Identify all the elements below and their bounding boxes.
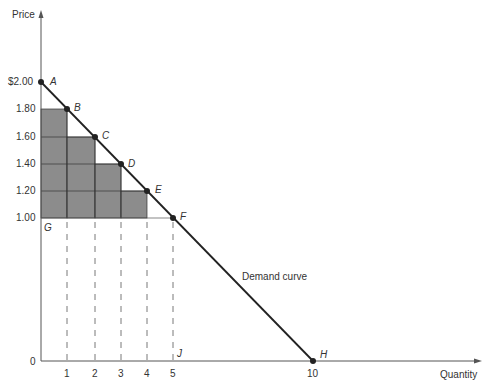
point-label-b: B	[74, 102, 81, 113]
point-label-c: C	[102, 130, 110, 141]
y-tick-1-40: 1.40	[16, 158, 36, 169]
point-label-g: G	[44, 222, 52, 233]
y-tick-1-00: 1.00	[16, 212, 36, 223]
y-tick-1-60: 1.60	[16, 131, 36, 142]
x-axis-arrow	[474, 359, 482, 364]
y-tick-2-00: $2.00	[8, 76, 33, 87]
point-label-d: D	[128, 158, 135, 169]
origin-label: 0	[30, 356, 36, 367]
y-tick-1-20: 1.20	[16, 185, 36, 196]
y-axis-arrow	[39, 10, 44, 18]
x-tick-2: 2	[92, 368, 98, 379]
point-label-h: H	[320, 349, 328, 360]
demand-curve	[41, 82, 313, 361]
demand-curve-label: Demand curve	[242, 271, 307, 282]
y-axis-title: Price	[12, 9, 35, 20]
x-tick-10: 10	[307, 368, 319, 379]
demand-chart: A B C D E F G H J Price Quantity Demand …	[0, 0, 490, 386]
point-label-f: F	[180, 211, 187, 222]
x-tick-4: 4	[144, 368, 150, 379]
dashed-guides	[67, 222, 173, 361]
point-label-e: E	[155, 184, 162, 195]
point-label-j: J	[176, 348, 183, 359]
x-tick-3: 3	[118, 368, 124, 379]
y-tick-1-80: 1.80	[16, 103, 36, 114]
x-axis-title: Quantity	[440, 369, 477, 380]
x-tick-5: 5	[170, 368, 176, 379]
point-label-a: A	[49, 76, 57, 87]
x-tick-1: 1	[64, 368, 70, 379]
